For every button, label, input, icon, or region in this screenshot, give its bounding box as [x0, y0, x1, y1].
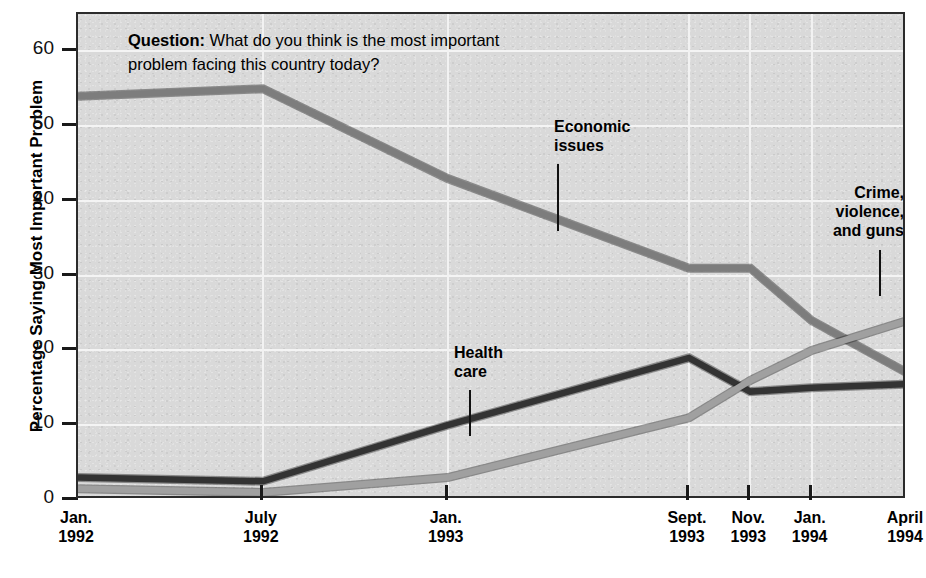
x-axis-label-month: Jan. [765, 508, 855, 527]
annotation-economic-line1: Economic [554, 118, 630, 135]
x-axis-label-year: 1992 [216, 527, 306, 546]
x-axis-label-month: July [216, 508, 306, 527]
question-label: Question: [128, 31, 205, 49]
y-axis-label: 0 [8, 486, 54, 508]
annotation-crime-line2: violence, [818, 202, 904, 221]
annotation-health-care: Health care [454, 343, 503, 381]
x-axis-tick [747, 485, 750, 500]
y-axis-label: 40 [8, 187, 54, 209]
y-axis-label: 10 [8, 411, 54, 433]
x-axis-label-year: 1993 [401, 527, 491, 546]
x-axis-tick [445, 485, 448, 500]
annotation-health-line2: care [454, 362, 503, 381]
x-axis-label-year: 1994 [860, 527, 926, 546]
series-lines [78, 14, 905, 498]
chart-container: Percentage Saying Most Important Problem… [0, 0, 926, 578]
leader-line-crime [879, 250, 881, 296]
annotation-crime: Crime, violence, and guns [818, 183, 904, 240]
y-axis-label: 50 [8, 112, 54, 134]
x-axis-label: Jan.1994 [765, 508, 855, 546]
x-axis-tick [809, 485, 812, 500]
annotation-crime-line3: and guns [818, 221, 904, 240]
annotation-crime-line1: Crime, [818, 183, 904, 202]
series-line-edge [78, 89, 905, 373]
leader-line-health [469, 390, 471, 436]
y-axis-label: 60 [8, 37, 54, 59]
x-axis-label: July1992 [216, 508, 306, 546]
x-axis-label: Jan.1992 [31, 508, 121, 546]
plot-area: Question: What do you think is the most … [76, 12, 905, 498]
y-axis-label: 20 [8, 336, 54, 358]
x-axis-tick [686, 485, 689, 500]
annotation-economic-issues: Economic issues [554, 117, 630, 155]
leader-line-economic [557, 164, 559, 231]
x-axis-label-year: 1994 [765, 527, 855, 546]
annotation-economic-line2: issues [554, 136, 630, 155]
y-axis-label: 30 [8, 262, 54, 284]
x-axis-label-year: 1992 [31, 527, 121, 546]
x-axis-label: Jan.1993 [401, 508, 491, 546]
annotation-health-line1: Health [454, 344, 503, 361]
question-text: Question: What do you think is the most … [128, 28, 558, 76]
x-axis-label-month: Jan. [401, 508, 491, 527]
x-axis-label-month: April [860, 508, 926, 527]
x-axis-tick [260, 485, 263, 500]
series-line-economic-issues [78, 89, 905, 373]
x-axis-label-month: Jan. [31, 508, 121, 527]
x-axis-label: April1994 [860, 508, 926, 546]
